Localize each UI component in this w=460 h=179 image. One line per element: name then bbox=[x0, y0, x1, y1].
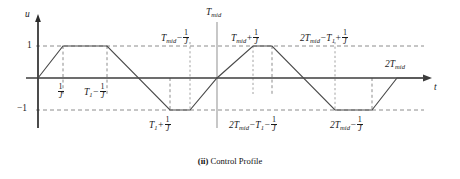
sub-mid: mid bbox=[211, 11, 221, 18]
x-axis-label: t bbox=[434, 83, 437, 93]
sub-1: 1 bbox=[332, 37, 335, 44]
sub-mid: mid bbox=[395, 63, 405, 70]
sub-1: 1 bbox=[261, 124, 264, 131]
annotation-2Tmid-minus-one-over-J: 2Tmid−1J bbox=[330, 116, 363, 134]
figure-caption: (ii) Control Profile bbox=[0, 156, 460, 166]
caption-number: (ii) bbox=[198, 156, 209, 166]
annotation-2Tmid-minus-T1-plus-one-over-J: 2Tmid−T1+1J bbox=[300, 29, 348, 47]
op-plus: + bbox=[335, 33, 341, 43]
caption-text: Control Profile bbox=[210, 156, 262, 166]
sub-mid: mid bbox=[239, 124, 249, 131]
annotation-Tmid-plus-one-over-J: Tmid+1J bbox=[231, 29, 260, 47]
fraction-one-over-J: 1J bbox=[100, 83, 106, 101]
fraction-one-over-J: 1J bbox=[165, 116, 171, 134]
op-minus: − bbox=[264, 120, 270, 130]
annotation-T1-minus-one-over-J: T1−1J bbox=[84, 83, 106, 101]
sub-mid: mid bbox=[166, 37, 176, 44]
sub-mid: mid bbox=[310, 37, 320, 44]
op-plus: + bbox=[246, 33, 252, 43]
sub-1: 1 bbox=[154, 124, 157, 131]
fraction-one-over-J: 1J bbox=[58, 83, 64, 101]
y-tick-label-positive-one: 1 bbox=[27, 41, 32, 51]
op-minus: − bbox=[350, 120, 356, 130]
y-axis-arrow bbox=[35, 14, 41, 22]
annotation-2Tmid: 2Tmid bbox=[385, 60, 405, 70]
x-axis-arrow bbox=[423, 75, 432, 82]
op-minus: − bbox=[176, 33, 182, 43]
y-axis-label: u bbox=[25, 10, 30, 20]
op-plus: + bbox=[158, 120, 164, 130]
annotation-one-over-J: 1J bbox=[57, 83, 64, 101]
fraction-one-over-J: 1J bbox=[253, 29, 259, 47]
annotation-T1-plus-one-over-J: T1+1J bbox=[149, 116, 171, 134]
fraction-one-over-J: 1J bbox=[357, 116, 363, 134]
fraction-one-over-J: 1J bbox=[342, 29, 348, 47]
control-profile-figure: u t 1 −1 1J T1−1J T1+1J Tmid−1J Tmid Tmi… bbox=[0, 0, 460, 179]
sym-T: T bbox=[255, 120, 260, 130]
op-minus: − bbox=[93, 87, 99, 97]
sub-mid: mid bbox=[236, 37, 246, 44]
control-profile-plot bbox=[0, 0, 460, 179]
sym-T: T bbox=[326, 33, 331, 43]
sub-1: 1 bbox=[89, 91, 92, 98]
annotation-2Tmid-minus-T1-minus-one-over-J: 2Tmid−T1−1J bbox=[229, 116, 277, 134]
fraction-one-over-J: 1J bbox=[183, 29, 189, 47]
annotation-Tmid-minus-one-over-J: Tmid−1J bbox=[161, 29, 190, 47]
sub-mid: mid bbox=[340, 124, 350, 131]
fraction-one-over-J: 1J bbox=[271, 116, 277, 134]
y-tick-label-negative-one: −1 bbox=[17, 104, 27, 114]
annotation-Tmid: Tmid bbox=[206, 8, 221, 18]
